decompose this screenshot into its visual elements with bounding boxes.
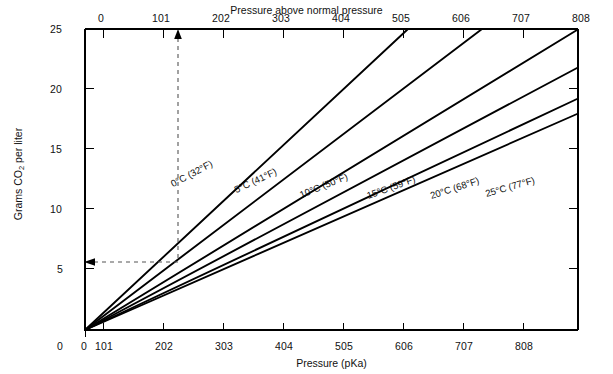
curve-15c bbox=[85, 68, 577, 330]
curve-5c bbox=[85, 29, 482, 330]
chart-figure: Pressure above normal pressure Pressure … bbox=[0, 0, 613, 374]
curve-0c bbox=[85, 29, 408, 330]
left-axis-ticks bbox=[85, 88, 94, 268]
annotation-vertical-dashed bbox=[174, 29, 182, 262]
top-axis-ticks bbox=[103, 29, 578, 38]
curve-25c bbox=[85, 114, 577, 330]
curve-20c bbox=[85, 99, 577, 330]
annotation-horizontal-dashed bbox=[84, 258, 178, 266]
chart-plot-svg bbox=[0, 0, 613, 374]
curve-10c bbox=[85, 30, 577, 330]
data-curves bbox=[85, 29, 577, 330]
